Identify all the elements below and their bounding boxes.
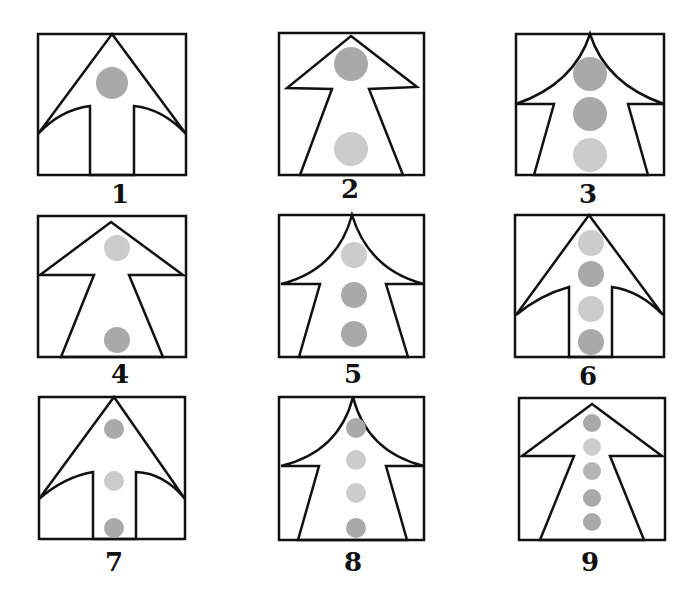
dot-light [583,438,601,456]
dot-dark [334,47,368,81]
arrow-figure-8 [279,397,424,540]
dot-dark [583,414,601,432]
panel-9 [519,398,665,540]
panel-2 [279,33,424,175]
dot-dark [578,329,604,355]
panel-label-8: 8 [333,548,373,576]
arrow-figure-7 [39,397,185,539]
dot-dark [583,462,601,480]
dot-dark [583,513,601,531]
dot-dark [104,327,130,353]
panel-1 [38,34,186,175]
panel-label-3: 3 [568,180,608,208]
dot-dark [96,67,128,99]
panel-label-7: 7 [94,548,134,576]
dot-dark [104,518,124,538]
panel-label-6: 6 [568,362,608,390]
arrow-figure-3 [516,34,664,175]
panel-label-5: 5 [333,360,373,388]
panel-8 [279,397,424,540]
arrow-figure-5 [279,215,424,357]
dot-dark [578,261,604,287]
panel-4 [38,216,186,357]
dot-dark [583,489,601,507]
dot-dark [573,57,607,91]
arrow-figure-1 [38,34,186,175]
arrow-figure-6 [515,215,664,357]
arrow-figure-2 [279,33,424,175]
dot-dark [341,321,367,347]
dot-dark [341,282,367,308]
panel-7 [39,397,185,539]
panel-6 [515,215,664,357]
panel-label-2: 2 [330,175,370,203]
dot-light [346,450,366,470]
arrow-figure-4 [38,216,186,357]
dot-light [573,138,607,172]
dot-light [346,483,366,503]
arrow-figure-9 [519,398,665,540]
panel-5 [279,215,424,357]
panel-label-1: 1 [100,180,140,208]
dot-light [334,132,368,166]
dot-dark [346,518,366,538]
panel-label-9: 9 [570,548,610,576]
dot-light [578,230,604,256]
dot-light [578,296,604,322]
dot-light [341,242,367,268]
dot-dark [104,419,124,439]
panel-3 [516,34,664,175]
panel-label-4: 4 [100,360,140,388]
dot-light [104,471,124,491]
dot-dark [346,418,366,438]
dot-dark [573,97,607,131]
dot-light [104,235,130,261]
